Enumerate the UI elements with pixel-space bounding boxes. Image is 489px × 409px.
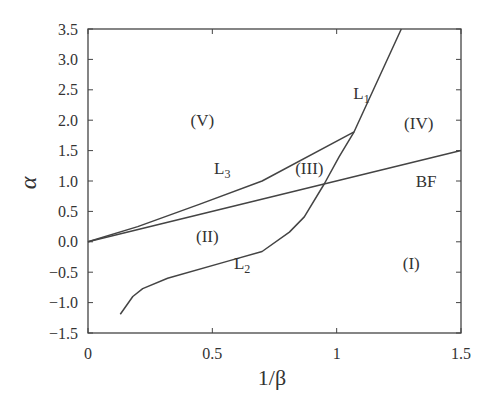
region-label: (V) <box>191 111 215 130</box>
x-tick-label: 0 <box>84 345 92 362</box>
region-label: (III) <box>295 159 323 178</box>
axis-ticks: 00.511.5−1.5−1.0−0.50.00.51.01.52.02.53.… <box>49 21 471 363</box>
y-tick-label: 1.5 <box>58 142 78 159</box>
y-tick-label: 1.0 <box>58 173 78 190</box>
y-tick-label: 2.0 <box>58 112 78 129</box>
y-tick-label: 2.5 <box>58 81 78 98</box>
x-tick-label: 0.5 <box>202 345 222 362</box>
y-tick-label: −0.5 <box>49 264 78 281</box>
region-label: (I) <box>403 254 420 273</box>
annotations: (V)L3(III)(IV)L1BF(II)L2(I) <box>191 84 437 276</box>
region-label: L2 <box>234 254 250 276</box>
x-tick-label: 1.5 <box>451 345 471 362</box>
y-tick-label: 0.5 <box>58 203 78 220</box>
y-axis-label: α <box>15 176 41 189</box>
region-label: (IV) <box>404 114 433 133</box>
y-tick-label: −1.5 <box>49 325 78 342</box>
region-label: L1 <box>353 84 369 106</box>
series-l1-l2 <box>120 29 401 314</box>
region-label: BF <box>416 172 437 191</box>
x-tick-label: 1 <box>333 345 341 362</box>
y-tick-label: 3.0 <box>58 51 78 68</box>
region-label: L3 <box>214 159 230 181</box>
y-tick-label: 0.0 <box>58 233 78 250</box>
region-label: (II) <box>196 227 219 246</box>
phase-diagram-chart: 00.511.5−1.5−1.0−0.50.00.51.01.52.02.53.… <box>0 0 489 409</box>
x-axis-label: 1/β <box>258 365 286 390</box>
series-bf <box>88 151 461 242</box>
y-tick-label: −1.0 <box>49 294 78 311</box>
y-tick-label: 3.5 <box>58 21 78 38</box>
